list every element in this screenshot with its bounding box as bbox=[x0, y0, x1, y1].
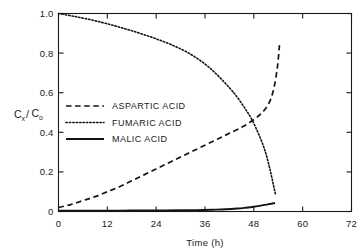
y-tick-label-0.8: 0.8 bbox=[40, 48, 54, 59]
legend-label-fumaric-acid: FUMARIC ACID bbox=[112, 118, 182, 128]
chart-background bbox=[0, 0, 364, 251]
x-tick-label-48: 48 bbox=[248, 218, 259, 229]
x-tick-label-12: 12 bbox=[102, 218, 113, 229]
chart-figure: 0122436486072 00.20.40.60.81.0 Time (h) … bbox=[0, 0, 364, 251]
y-tick-label-1.0: 1.0 bbox=[40, 8, 54, 19]
x-tick-label-60: 60 bbox=[297, 218, 308, 229]
x-tick-label-36: 36 bbox=[200, 218, 211, 229]
y-tick-label-0.6: 0.6 bbox=[40, 87, 54, 98]
y-tick-label-0.4: 0.4 bbox=[40, 127, 54, 138]
x-axis-title: Time (h) bbox=[186, 237, 223, 248]
legend-label-malic-acid: MALIC ACID bbox=[112, 134, 168, 144]
chart-svg: 0122436486072 00.20.40.60.81.0 Time (h) … bbox=[0, 0, 364, 251]
y-axis-title-sub2: o bbox=[39, 114, 43, 121]
y-axis-title: C x / C o bbox=[14, 107, 43, 122]
y-tick-label-0: 0 bbox=[48, 206, 53, 217]
y-axis-title-sub1: x bbox=[22, 115, 26, 122]
x-tick-label-24: 24 bbox=[151, 218, 162, 229]
y-tick-label-0.2: 0.2 bbox=[40, 166, 54, 177]
x-tick-label-72: 72 bbox=[346, 218, 357, 229]
x-tick-label-0: 0 bbox=[56, 218, 61, 229]
y-axis-title-slash: / bbox=[26, 108, 29, 120]
legend-label-aspartic-acid: ASPARTIC ACID bbox=[112, 101, 186, 111]
